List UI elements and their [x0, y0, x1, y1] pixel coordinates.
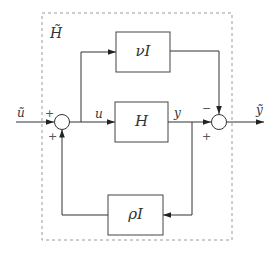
rho-block-label: ρI [108, 207, 163, 222]
y-signal-label: y [174, 107, 181, 119]
rho-feedback-output-line [62, 130, 108, 216]
nu-output-line [170, 51, 219, 114]
left-summing-junction [55, 115, 70, 130]
input-signal-label: ũ [17, 107, 25, 119]
right-junction-top-sign: − [202, 103, 211, 114]
left-junction-top-sign: + [45, 108, 54, 119]
block-diagram: H̃ ũ u y ỹ νI H ρI + + − + [0, 0, 279, 255]
output-signal-label: ỹ [256, 104, 263, 116]
outer-system-label: H̃ [50, 26, 62, 40]
h-block-label: H [115, 114, 168, 129]
left-junction-bottom-sign: + [48, 131, 57, 142]
right-junction-bottom-sign: + [202, 131, 211, 142]
u-signal-label: u [95, 108, 103, 120]
right-summing-junction [212, 115, 227, 130]
nu-block-label: νI [116, 44, 170, 59]
